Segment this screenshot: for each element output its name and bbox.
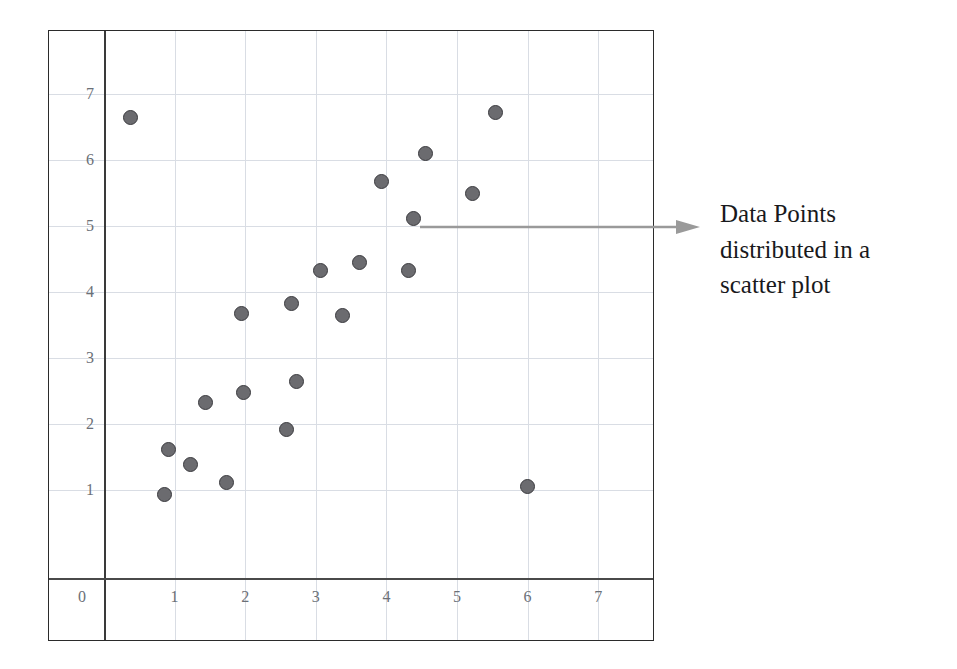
scatter-data-point xyxy=(313,263,328,278)
scatter-data-point xyxy=(335,308,350,323)
x-axis-tick-label: 7 xyxy=(594,589,602,605)
figure-page: 012345671234567 Data Points distributed … xyxy=(0,0,957,669)
x-axis-tick-label: 1 xyxy=(171,589,179,605)
x-axis-tick-label: 0 xyxy=(78,589,86,605)
annotation-caption-line-3: scatter plot xyxy=(720,267,950,303)
scatter-data-point xyxy=(488,105,503,120)
y-axis-tick-label: 6 xyxy=(86,152,94,168)
scatter-data-point xyxy=(520,479,535,494)
gridline-vertical xyxy=(245,31,246,640)
x-axis-tick-label: 3 xyxy=(312,589,320,605)
scatter-data-point xyxy=(219,475,234,490)
gridline-horizontal xyxy=(49,160,653,161)
annotation-caption: Data Points distributed in a scatter plo… xyxy=(720,196,950,303)
gridline-vertical xyxy=(457,31,458,640)
scatter-plot-figure: 012345671234567 xyxy=(48,30,654,641)
scatter-data-point xyxy=(406,211,421,226)
x-axis-tick-label: 2 xyxy=(241,589,249,605)
scatter-data-point xyxy=(183,457,198,472)
gridline-vertical xyxy=(528,31,529,640)
plot-canvas: 012345671234567 xyxy=(49,31,653,640)
scatter-data-point xyxy=(236,385,251,400)
scatter-data-point xyxy=(157,487,172,502)
gridline-horizontal xyxy=(49,94,653,95)
y-axis-tick-label: 1 xyxy=(86,482,94,498)
gridline-vertical xyxy=(316,31,317,640)
gridline-horizontal xyxy=(49,358,653,359)
scatter-data-point xyxy=(279,422,294,437)
x-axis-line xyxy=(49,578,653,580)
gridline-horizontal xyxy=(49,292,653,293)
scatter-data-point xyxy=(234,306,249,321)
annotation-caption-line-1: Data Points xyxy=(720,196,950,232)
y-axis-tick-label: 7 xyxy=(86,86,94,102)
scatter-data-point xyxy=(198,395,213,410)
x-axis-tick-label: 5 xyxy=(453,589,461,605)
scatter-data-point xyxy=(418,146,433,161)
scatter-data-point xyxy=(465,186,480,201)
gridline-horizontal xyxy=(49,490,653,491)
gridline-vertical xyxy=(386,31,387,640)
scatter-data-point xyxy=(401,263,416,278)
scatter-data-point xyxy=(161,442,176,457)
gridline-horizontal xyxy=(49,424,653,425)
y-axis-tick-label: 5 xyxy=(86,218,94,234)
scatter-data-point xyxy=(123,110,138,125)
scatter-data-point xyxy=(289,374,304,389)
scatter-data-point xyxy=(352,255,367,270)
y-axis-tick-label: 3 xyxy=(86,350,94,366)
annotation-caption-line-2: distributed in a xyxy=(720,232,950,268)
gridline-vertical xyxy=(598,31,599,640)
scatter-data-point xyxy=(284,296,299,311)
y-axis-tick-label: 2 xyxy=(86,416,94,432)
x-axis-tick-label: 4 xyxy=(382,589,390,605)
y-axis-line xyxy=(104,31,106,640)
x-axis-tick-label: 6 xyxy=(524,589,532,605)
y-axis-tick-label: 4 xyxy=(86,284,94,300)
gridline-vertical xyxy=(175,31,176,640)
gridline-horizontal xyxy=(49,226,653,227)
